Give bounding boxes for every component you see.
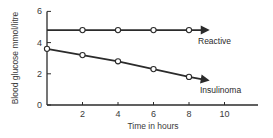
- x-tick-label: 8: [186, 109, 191, 119]
- data-point-marker: [151, 67, 156, 72]
- x-tick-label: 10: [219, 109, 229, 119]
- x-tick-label: 2: [80, 109, 85, 119]
- data-point-marker: [186, 74, 191, 79]
- series-label-reactive: Reactive: [198, 36, 231, 46]
- data-point-marker: [115, 28, 120, 33]
- y-tick-label: 4: [37, 38, 42, 48]
- data-point-marker: [80, 28, 85, 33]
- x-tick-label: 6: [151, 109, 156, 119]
- x-tick-label: 4: [115, 109, 120, 119]
- series-group: [44, 26, 209, 84]
- series-insulinoma: [44, 46, 209, 83]
- series-line: [47, 49, 207, 80]
- y-tick-label: 6: [37, 6, 42, 16]
- data-point-marker: [151, 28, 156, 33]
- data-point-marker: [186, 28, 191, 33]
- series-reactive: [47, 26, 210, 35]
- series-label-insulinoma: Insulinoma: [200, 85, 241, 95]
- arrow-icon: [201, 26, 210, 35]
- data-point-marker: [44, 46, 49, 51]
- y-tick-label: 0: [37, 100, 42, 110]
- data-point-marker: [80, 52, 85, 57]
- axes: 0246246810: [37, 6, 258, 119]
- y-axis-title: Blood glucose mmol/litre: [10, 11, 20, 104]
- chart: 0246246810 Time in hoursBlood glucose mm…: [0, 0, 273, 138]
- y-tick-label: 2: [37, 69, 42, 79]
- x-axis-title: Time in hours: [127, 121, 178, 131]
- arrow-icon: [200, 75, 210, 84]
- data-point-marker: [115, 59, 120, 64]
